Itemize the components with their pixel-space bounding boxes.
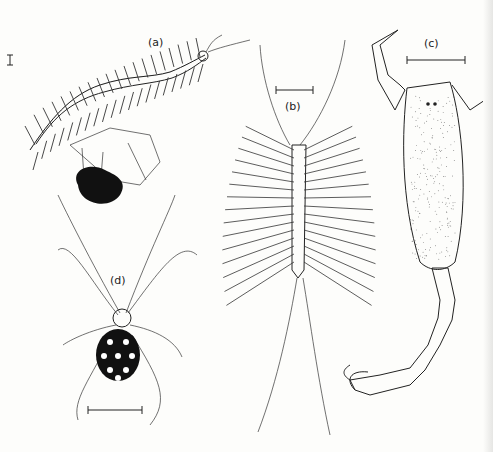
- panel-a-centipede: (a): [7, 35, 250, 170]
- panel-c-scorpion: (c): [344, 30, 485, 395]
- page-edge-shadow: [483, 0, 493, 452]
- panel-d-label: (d): [110, 274, 126, 287]
- panel-b-label: (b): [285, 100, 301, 113]
- panel-a-label: (a): [148, 36, 163, 49]
- panel-c-label: (c): [424, 37, 439, 50]
- panel-d-spider: (d): [58, 195, 197, 425]
- web-spider: [70, 128, 160, 204]
- panel-b-house-centipede: (b): [222, 40, 375, 435]
